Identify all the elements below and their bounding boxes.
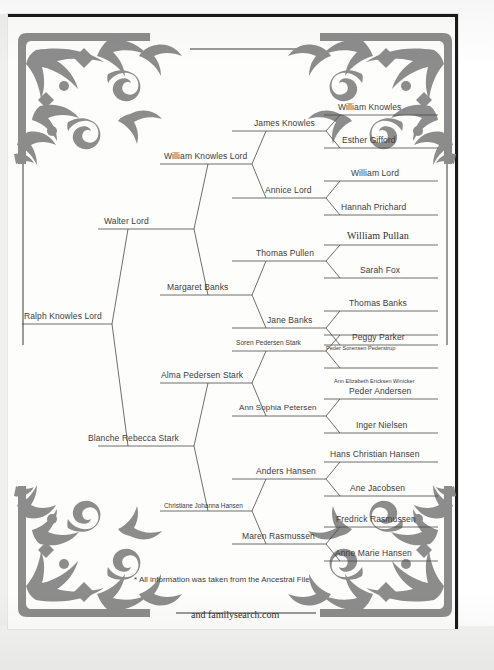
- footnote-source: * All information was taken from the Anc…: [134, 575, 310, 584]
- pedigree-tree: Ralph Knowles Lord Walter Lord Blanche R…: [8, 14, 455, 626]
- person-gen5-6: Sarah Fox: [360, 265, 400, 275]
- person-gen3-4: Christiane Johanna Hansen: [164, 502, 243, 509]
- person-gen3-2: Margaret Banks: [167, 282, 228, 292]
- person-gen5-13: Hans Christian Hansen: [330, 449, 420, 459]
- pedigree-chart-page: Ralph Knowles Lord Walter Lord Blanche R…: [0, 0, 494, 670]
- person-gen5-12: Inger Nielsen: [356, 420, 407, 430]
- person-gen5-1: William Knowles: [338, 102, 401, 112]
- person-gen5-9: Peder Sorensen Pederstrup: [326, 345, 395, 351]
- person-gen2-2: Blanche Rebecca Stark: [88, 433, 179, 443]
- person-gen1-1: Ralph Knowles Lord: [24, 311, 102, 321]
- person-gen5-11: Peder Andersen: [349, 386, 411, 396]
- person-gen5-4: Hannah Prichard: [341, 202, 406, 212]
- person-gen5-8: Peggy Parker: [352, 332, 405, 342]
- person-gen5-5: William Pullan: [347, 230, 409, 241]
- person-gen4-5: Soren Pedersen Stark: [236, 339, 301, 346]
- person-gen5-15: Fredrick Rasmussen: [336, 514, 416, 524]
- person-gen5-10: Ann Elizabeth Ericksen Winicker: [334, 378, 415, 384]
- person-gen5-14: Ane Jacobsen: [350, 483, 405, 493]
- person-gen3-1: William Knowles Lord: [164, 151, 247, 161]
- footer-website: and familysearch.com: [191, 609, 279, 620]
- person-gen4-3: Thomas Pullen: [256, 248, 314, 258]
- person-gen5-16: Anne Marie Hansen: [335, 548, 412, 558]
- person-gen4-6: Ann Sophia Petersen: [239, 403, 317, 412]
- person-gen3-3: Alma Pedersen Stark: [161, 370, 243, 380]
- person-gen4-8: Maren Rasmussen: [242, 531, 315, 541]
- person-gen5-7: Thomas Banks: [349, 298, 407, 308]
- scan-bottom-margin: [0, 626, 494, 670]
- person-gen4-1: James Knowles: [254, 118, 315, 128]
- person-gen4-2: Annice Lord: [265, 185, 311, 195]
- person-gen5-3: William Lord: [351, 168, 399, 178]
- person-gen5-2: Esther Gifford: [342, 135, 396, 145]
- person-gen4-7: Anders Hansen: [256, 466, 316, 476]
- person-gen4-4: Jane Banks: [267, 315, 312, 325]
- person-gen2-1: Walter Lord: [104, 216, 149, 226]
